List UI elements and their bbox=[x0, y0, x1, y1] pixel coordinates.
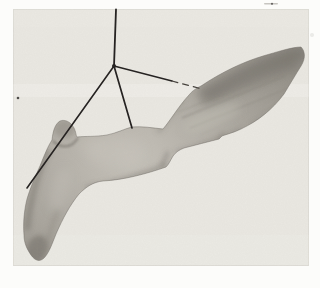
suspended-object-photograph bbox=[0, 0, 320, 288]
photo-page bbox=[0, 0, 320, 288]
margin-smudge-right bbox=[310, 33, 314, 37]
photo-scene bbox=[0, 0, 320, 288]
print-dot-top-right bbox=[271, 3, 273, 5]
halftone-grain-overlay bbox=[14, 10, 309, 266]
